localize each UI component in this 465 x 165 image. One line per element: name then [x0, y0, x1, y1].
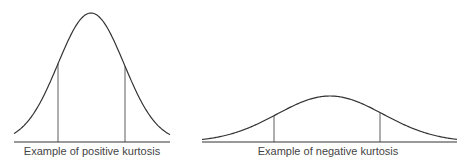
positive-kurtosis-chart	[14, 13, 170, 142]
positive-kurtosis-label: Example of positive kurtosis	[24, 145, 160, 157]
negative-kurtosis-chart	[202, 96, 457, 142]
bell-curve	[202, 96, 457, 140]
bell-curve	[14, 13, 170, 135]
kurtosis-diagram	[0, 0, 465, 165]
negative-kurtosis-label: Example of negative kurtosis	[258, 145, 399, 157]
